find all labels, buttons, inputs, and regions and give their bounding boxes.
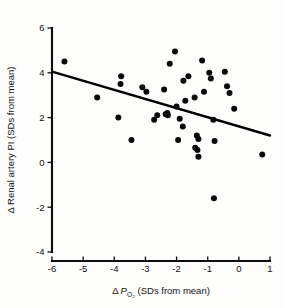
x-axis-delta-symbol: Δ (112, 285, 120, 296)
data-point-marker (231, 106, 237, 112)
data-point-marker (201, 89, 207, 95)
y-axis-delta-symbol: Δ (5, 205, 16, 213)
data-point-marker (94, 94, 100, 100)
data-point-marker (222, 69, 228, 75)
y-tick-label: -2 (36, 202, 44, 213)
data-point-marker (192, 94, 198, 100)
regression-trendline (52, 72, 270, 136)
regression-line (52, 72, 270, 136)
data-point-marker (199, 57, 205, 63)
data-point-marker (182, 98, 188, 104)
data-point-marker (208, 75, 214, 81)
x-tick-label: -1 (203, 263, 211, 274)
data-point-marker (259, 152, 265, 158)
data-point-marker (167, 61, 173, 67)
y-tick-label: 0 (39, 157, 44, 168)
data-point-marker (195, 154, 201, 160)
data-point-marker (174, 103, 180, 109)
x-axis-title-suffix: (SDs from mean) (135, 285, 210, 296)
x-axis-title: Δ PO₂ (SDs from mean) (112, 285, 210, 298)
data-point-marker (172, 49, 178, 55)
y-axis-title: Δ Renal artery PI (SDs from mean) (5, 67, 16, 214)
x-tick-label: -2 (172, 263, 180, 274)
y-axis-title-text: Renal artery PI (SDs from mean) (5, 67, 16, 205)
x-tick-label: -6 (48, 263, 56, 274)
data-point-marker (195, 136, 201, 142)
data-point-marker (165, 112, 171, 118)
x-axis: -6-5-4-3-2-101 (48, 257, 273, 275)
data-point-marker (139, 84, 145, 90)
y-tick-label: 4 (39, 67, 44, 78)
data-point-marker (194, 147, 200, 153)
data-point-marker (177, 116, 183, 122)
data-point-marker (227, 90, 233, 96)
data-point-marker (115, 115, 121, 121)
y-tick-label: 6 (39, 22, 44, 33)
data-point-marker (143, 89, 149, 95)
y-tick-label: 2 (39, 112, 44, 123)
data-point-marker (224, 83, 230, 89)
data-point-marker (206, 70, 212, 76)
data-point-marker (185, 73, 191, 79)
y-axis: -4-20246 (36, 22, 52, 257)
data-point-marker (212, 138, 218, 144)
data-point-marker (61, 59, 67, 65)
data-point-marker (210, 117, 216, 123)
data-point-marker (180, 78, 186, 84)
x-tick-label: 0 (236, 263, 241, 274)
data-point-marker (211, 195, 217, 201)
data-point-marker (175, 137, 181, 143)
x-tick-label: -4 (110, 263, 118, 274)
x-tick-label: -5 (79, 263, 87, 274)
scatter-plot-figure: -4-20246 -6-5-4-3-2-101 Δ Renal artery P… (0, 0, 286, 308)
x-tick-label: 1 (267, 263, 272, 274)
data-point-marker (128, 137, 134, 143)
data-point-marker (118, 73, 124, 79)
chart-canvas: -4-20246 -6-5-4-3-2-101 Δ Renal artery P… (0, 0, 286, 308)
data-point-marker (161, 87, 167, 93)
data-point-marker (154, 112, 160, 118)
data-point-marker (180, 124, 186, 130)
x-tick-label: -3 (141, 263, 149, 274)
data-point-marker (118, 81, 124, 87)
y-tick-label: -4 (36, 246, 44, 257)
